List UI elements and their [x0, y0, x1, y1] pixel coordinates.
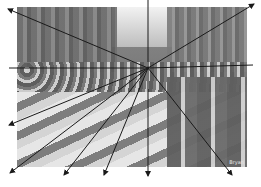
line-down-left-4-arrow: [104, 68, 148, 175]
line-down-left-3-arrow: [64, 68, 148, 175]
line-up-left-arrow: [8, 9, 148, 68]
line-up-right-arrow: [148, 4, 254, 68]
vanishing-point-marker: [147, 67, 150, 70]
perspective-lines: [0, 0, 261, 187]
line-down-right-arrow: [148, 68, 232, 175]
line-right-horizon: [148, 65, 253, 68]
line-down-left-2-arrow: [10, 68, 148, 173]
line-down-left-1-arrow: [9, 68, 148, 125]
radiating-lines-group: [8, 0, 254, 176]
